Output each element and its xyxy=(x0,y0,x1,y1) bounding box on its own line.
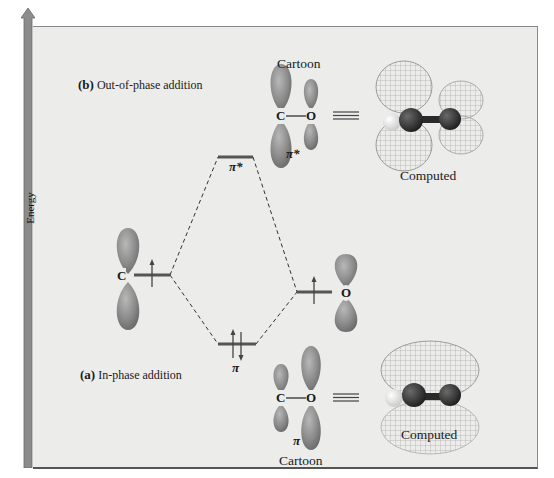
equivalence-symbol-icon xyxy=(333,394,359,401)
panel-b-cartoon-label: Cartoon xyxy=(277,56,321,72)
pi-star-level-label: π* xyxy=(229,159,243,175)
cartoon-pi-star-label: π* xyxy=(286,146,300,162)
spin-up-arrow-icon xyxy=(231,329,236,335)
cartoon-b-atom-o: O xyxy=(306,108,316,124)
panel-a-computed-label: Computed xyxy=(401,427,457,443)
oxygen-atom-label: O xyxy=(341,285,351,301)
spin-up-arrow-icon xyxy=(312,276,317,282)
panel-b-heading: (b) Out-of-phase addition xyxy=(78,77,203,93)
panel-b-computed-label: Computed xyxy=(400,168,456,184)
panel-a-heading: (a) In-phase addition xyxy=(80,367,182,383)
equivalence-symbol-icon xyxy=(333,112,359,119)
correlation-lines xyxy=(170,157,297,344)
pi-level-label: π xyxy=(232,360,239,376)
cartoon-a-atom-o: O xyxy=(306,390,316,406)
spin-down-arrow-icon xyxy=(239,355,244,361)
cartoon-a-atom-c: C xyxy=(276,390,285,406)
panel-a-cartoon-label: Cartoon xyxy=(279,453,323,469)
cartoon-pi-label: π xyxy=(293,433,300,449)
spin-up-arrow-icon xyxy=(150,259,155,265)
cartoon-b-atom-c: C xyxy=(276,108,285,124)
computed-pi-star-orbital xyxy=(376,61,483,171)
carbon-atom-label: C xyxy=(117,268,126,284)
